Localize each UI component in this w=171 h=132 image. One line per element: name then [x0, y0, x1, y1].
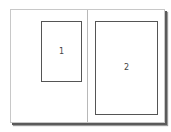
page-spread: 1 2	[10, 9, 165, 123]
frame-2-label: 2	[124, 64, 129, 72]
frame-1-label: 1	[59, 48, 64, 56]
frame-2[interactable]: 2	[95, 21, 158, 115]
frame-1[interactable]: 1	[41, 21, 82, 82]
page-divider	[87, 10, 88, 122]
